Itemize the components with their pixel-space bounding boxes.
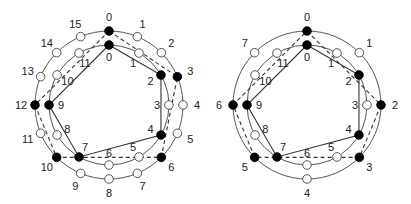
- outer-node-6: [229, 101, 238, 110]
- inner-label-4: 4: [346, 123, 352, 135]
- outer-label-4: 4: [304, 187, 310, 199]
- outer-node-7: [133, 169, 142, 178]
- inner-node-2: [157, 71, 166, 80]
- outer-node-1: [133, 32, 142, 41]
- outer-node-15: [76, 32, 85, 41]
- inner-node-8: [251, 131, 260, 140]
- inner-node-10: [53, 71, 62, 80]
- outer-node-12: [31, 101, 40, 110]
- inner-label-5: 5: [328, 141, 334, 153]
- inner-node-3: [363, 101, 372, 110]
- outer-label-3: 3: [187, 65, 193, 77]
- inner-label-8: 8: [262, 123, 268, 135]
- inner-node-8: [53, 131, 62, 140]
- inner-node-7: [75, 153, 84, 162]
- inner-label-11: 11: [277, 57, 288, 69]
- inner-node-0: [105, 41, 114, 50]
- inner-label-6: 6: [106, 147, 112, 159]
- outer-label-1: 1: [140, 18, 146, 30]
- outer-node-1: [355, 48, 364, 57]
- outer-node-3: [355, 153, 364, 162]
- outer-label-11: 11: [22, 133, 33, 145]
- inner-node-10: [251, 71, 260, 80]
- outer-node-14: [52, 48, 61, 57]
- outer-label-12: 12: [15, 99, 27, 111]
- inner-label-10: 10: [259, 75, 271, 87]
- outer-node-9: [76, 169, 85, 178]
- inner-label-4: 4: [148, 123, 154, 135]
- inner-label-3: 3: [352, 99, 358, 111]
- inner-label-9: 9: [256, 99, 262, 111]
- inner-node-2: [355, 71, 364, 80]
- outer-node-4: [303, 175, 312, 184]
- outer-node-8: [105, 175, 114, 184]
- circular-schedule-diagrams: 012345678910111213141501234567891011 012…: [0, 0, 411, 204]
- outer-label-6: 6: [216, 99, 222, 111]
- outer-label-5: 5: [187, 133, 193, 145]
- outer-label-15: 15: [69, 18, 81, 30]
- outer-node-0: [105, 27, 114, 36]
- outer-label-10: 10: [41, 161, 53, 173]
- inner-label-0: 0: [304, 51, 310, 63]
- outer-node-7: [250, 48, 259, 57]
- inner-node-11: [75, 49, 84, 58]
- inner-label-1: 1: [130, 57, 136, 69]
- outer-label-6: 6: [168, 161, 174, 173]
- outer-node-10: [52, 153, 61, 162]
- inner-node-6: [303, 161, 312, 170]
- outer-label-0: 0: [106, 11, 112, 23]
- inner-node-5: [135, 153, 144, 162]
- inner-label-7: 7: [82, 141, 88, 153]
- outer-label-8: 8: [106, 187, 112, 199]
- outer-node-2: [157, 48, 166, 57]
- inner-label-5: 5: [130, 141, 136, 153]
- outer-node-5: [173, 129, 182, 138]
- inner-label-3: 3: [154, 99, 160, 111]
- inner-label-2: 2: [346, 75, 352, 87]
- outer-label-13: 13: [22, 65, 34, 77]
- outer-label-0: 0: [304, 11, 310, 23]
- inner-node-4: [157, 131, 166, 140]
- inner-label-11: 11: [79, 57, 90, 69]
- inner-node-1: [135, 49, 144, 58]
- inner-label-2: 2: [148, 75, 154, 87]
- outer-label-9: 9: [72, 180, 78, 192]
- inner-label-9: 9: [58, 99, 64, 111]
- inner-label-1: 1: [328, 57, 334, 69]
- inner-node-6: [105, 161, 114, 170]
- outer-label-7: 7: [140, 180, 146, 192]
- inner-label-7: 7: [280, 141, 286, 153]
- outer-label-5: 5: [242, 161, 248, 173]
- inner-label-6: 6: [304, 147, 310, 159]
- inner-node-4: [355, 131, 364, 140]
- outer-node-0: [303, 27, 312, 36]
- inner-node-5: [333, 153, 342, 162]
- inner-label-10: 10: [61, 75, 73, 87]
- outer-node-4: [179, 101, 188, 110]
- inner-label-8: 8: [64, 123, 70, 135]
- outer-node-2: [377, 101, 386, 110]
- inner-label-0: 0: [106, 51, 112, 63]
- outer-label-2: 2: [168, 37, 174, 49]
- outer-label-2: 2: [392, 99, 398, 111]
- left-diagram: 012345678910111213141501234567891011: [15, 11, 200, 199]
- outer-node-6: [157, 153, 166, 162]
- right-diagram: 0123456701234567891011: [216, 11, 398, 199]
- outer-label-4: 4: [194, 99, 200, 111]
- outer-label-1: 1: [366, 37, 372, 49]
- inner-node-9: [45, 101, 54, 110]
- outer-node-5: [250, 153, 259, 162]
- outer-node-3: [173, 72, 182, 81]
- outer-node-11: [36, 129, 45, 138]
- outer-label-7: 7: [242, 37, 248, 49]
- outer-node-13: [36, 72, 45, 81]
- outer-label-14: 14: [41, 37, 53, 49]
- inner-node-0: [303, 41, 312, 50]
- inner-node-3: [165, 101, 174, 110]
- outer-label-3: 3: [366, 161, 372, 173]
- inner-node-11: [273, 49, 282, 58]
- inner-node-9: [243, 101, 252, 110]
- inner-node-7: [273, 153, 282, 162]
- inner-node-1: [333, 49, 342, 58]
